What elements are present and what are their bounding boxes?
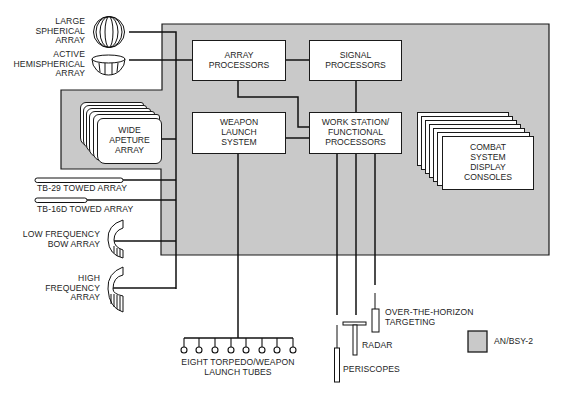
- anbsy2-block-diagram: WIDE APETURE ARRAY COMBAT SYSTEM DISPLAY…: [0, 0, 561, 396]
- display-consoles-front: COMBAT SYSTEM DISPLAY CONSOLES: [442, 136, 534, 190]
- legend-label: AN/BSY-2: [494, 337, 533, 347]
- spherical-array-icon: [94, 17, 125, 48]
- label-line: ARRAY: [35, 36, 85, 46]
- torpedo-tubes-icon: [181, 338, 296, 353]
- tb29-towed-array-label: TB-29 TOWED ARRAY: [37, 184, 127, 194]
- weapon-launch-label-line3: SYSTEM: [221, 138, 256, 148]
- periscope-icon: [335, 325, 340, 382]
- oth-targeting-label: OVER-THE-HORIZON TARGETING: [385, 308, 474, 327]
- label-line: ARRAY: [14, 69, 86, 79]
- radar-label: RADAR: [362, 341, 393, 351]
- wide-aperture-label-line3: ARRAY: [115, 146, 144, 156]
- legend-swatch: [468, 331, 487, 352]
- work-station-label-line3: PROCESSORS: [325, 138, 386, 148]
- weapon-launch-system-box: WEAPON LAUNCH SYSTEM: [192, 112, 286, 154]
- label-line: ARRAY: [45, 293, 100, 303]
- array-processors-box: ARRAY PROCESSORS: [192, 40, 286, 81]
- array-processors-label-line2: PROCESSORS: [209, 61, 270, 71]
- high-frequency-array-icon: [108, 267, 123, 312]
- tb16d-towed-array-label: TB-16D TOWED ARRAY: [37, 205, 133, 215]
- tb29-towed-array-icon: [35, 178, 123, 183]
- hemispherical-array-icon: [92, 55, 125, 75]
- label-line: LAUNCH TUBES: [178, 368, 298, 378]
- oth-targeting-icon: [372, 293, 379, 332]
- work-station-box: WORK STATION/ FUNCTIONAL PROCESSORS: [309, 112, 402, 154]
- label-line: BOW ARRAY: [23, 240, 100, 250]
- active-hemispherical-array-label: ACTIVE HEMISPHERICAL ARRAY: [14, 50, 86, 79]
- signal-processors-label-line2: PROCESSORS: [325, 61, 386, 71]
- consoles-label-line4: CONSOLES: [464, 173, 512, 183]
- periscopes-label: PERISCOPES: [343, 365, 400, 375]
- high-frequency-array-label: HIGH FREQUENCY ARRAY: [45, 274, 100, 303]
- torpedo-tubes-label: EIGHT TORPEDO/WEAPON LAUNCH TUBES: [178, 358, 298, 377]
- large-spherical-array-label: LARGE SPHERICAL ARRAY: [35, 17, 85, 46]
- low-frequency-bow-array-label: LOW FREQUENCY BOW ARRAY: [23, 230, 100, 249]
- label-line: TARGETING: [385, 318, 474, 328]
- signal-processors-box: SIGNAL PROCESSORS: [309, 40, 402, 81]
- wide-aperture-array-front: WIDE APETURE ARRAY: [97, 118, 162, 164]
- tb16d-towed-array-icon: [35, 198, 87, 203]
- bow-array-icon: [108, 220, 123, 258]
